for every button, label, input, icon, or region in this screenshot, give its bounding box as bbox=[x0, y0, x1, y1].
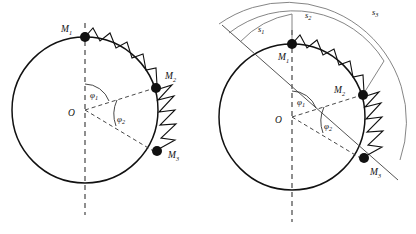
label-m2: M2 bbox=[164, 71, 176, 83]
label-phi1: φ1 bbox=[90, 90, 98, 101]
mass-node-m3[interactable] bbox=[152, 146, 162, 156]
panel-left: M1 M2 M3 O φ1 φ2 bbox=[12, 23, 179, 215]
mass-node-m2[interactable] bbox=[151, 83, 161, 93]
label-s3: s3 bbox=[372, 7, 378, 18]
label-m3: M3 bbox=[369, 167, 381, 179]
label-center-o: O bbox=[68, 108, 75, 118]
panel-right: M1 M2 M3 O φ1 φ2 s1 s2 s3 bbox=[219, 2, 406, 222]
label-phi2: φ2 bbox=[324, 121, 332, 132]
label-m3: M3 bbox=[167, 150, 179, 162]
diagonal-reference-line bbox=[222, 25, 398, 180]
label-center-o: O bbox=[275, 115, 282, 125]
spring-m2-m3 bbox=[156, 85, 176, 150]
label-s1: s1 bbox=[258, 24, 264, 35]
mass-node-m3[interactable] bbox=[359, 153, 369, 163]
arc-tick-s2-end bbox=[364, 61, 384, 93]
label-m1: M1 bbox=[277, 52, 289, 64]
label-phi2: φ2 bbox=[117, 114, 125, 125]
diagram-svg: M1 M2 M3 O φ1 φ2 bbox=[0, 0, 416, 234]
label-m2: M2 bbox=[333, 85, 345, 97]
mass-node-m1[interactable] bbox=[287, 39, 297, 49]
arc-measure-line-s1 bbox=[240, 14, 292, 42]
spring-m2-m3 bbox=[363, 92, 383, 157]
spring-m1-m2 bbox=[292, 35, 364, 92]
label-phi1: φ1 bbox=[297, 97, 305, 108]
figure-container: M1 M2 M3 O φ1 φ2 bbox=[0, 0, 416, 234]
mass-node-m1[interactable] bbox=[80, 32, 90, 42]
spring-m1-m2 bbox=[85, 28, 157, 85]
arc-measure-line-s3 bbox=[219, 2, 406, 160]
mass-node-m2[interactable] bbox=[358, 90, 368, 100]
label-m1: M1 bbox=[60, 24, 72, 36]
